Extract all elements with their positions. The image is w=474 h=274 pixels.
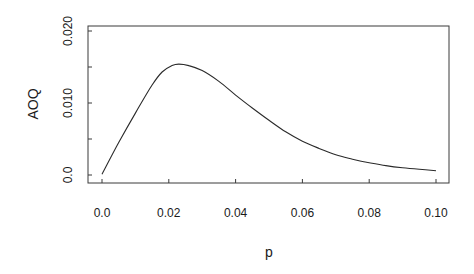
y-tick-label: 0.010 — [61, 88, 75, 118]
x-axis-ticks: 0.00.020.040.060.080.10 — [94, 179, 448, 220]
x-axis-label: p — [265, 244, 273, 260]
aoq-curve-line — [102, 64, 436, 174]
x-tick-label: 0.0 — [94, 206, 111, 220]
y-tick-label: 0.020 — [61, 16, 75, 46]
x-tick-label: 0.02 — [157, 206, 181, 220]
x-tick-label: 0.10 — [424, 206, 448, 220]
plot-frame — [88, 26, 449, 183]
y-axis-label: AOQ — [25, 88, 41, 119]
x-tick-label: 0.08 — [358, 206, 382, 220]
y-tick-label: 0.0 — [61, 166, 75, 183]
x-tick-label: 0.04 — [224, 206, 248, 220]
x-tick-label: 0.06 — [291, 206, 315, 220]
y-axis-ticks: 0.00.0100.020 — [61, 16, 92, 184]
aoq-chart: 0.00.020.040.060.080.10 0.00.0100.020 p … — [0, 0, 474, 274]
